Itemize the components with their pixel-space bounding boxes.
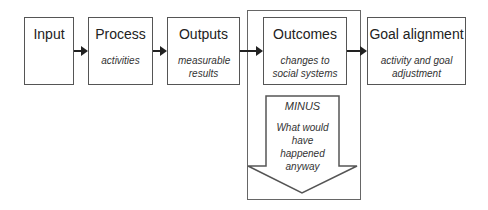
minus-label: MINUS: [266, 100, 339, 112]
minus-arrow-text: MINUS What would have happened anyway: [266, 100, 339, 173]
connectors: [0, 0, 488, 210]
minus-description: What would have happened anyway: [266, 121, 339, 173]
